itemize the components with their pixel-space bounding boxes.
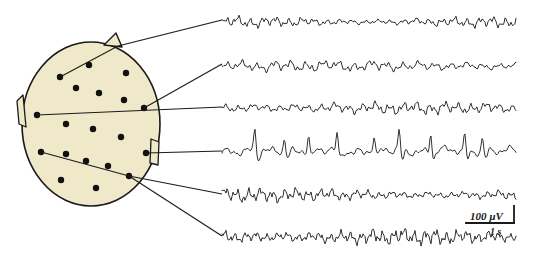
electrode-dot-e5[interactable] bbox=[96, 90, 102, 96]
eeg-trace-channel-4[interactable] bbox=[222, 129, 516, 160]
electrode-dot-e18[interactable] bbox=[58, 177, 64, 183]
scalp-electrode-map bbox=[17, 33, 160, 206]
eeg-trace-channel-3[interactable] bbox=[222, 101, 516, 115]
eeg-trace-channel-6[interactable] bbox=[222, 229, 516, 247]
eeg-trace-channel-1[interactable] bbox=[222, 15, 516, 28]
nose-icon bbox=[104, 33, 122, 47]
eeg-trace-channel-5[interactable] bbox=[222, 187, 516, 203]
electrode-dot-e11[interactable] bbox=[118, 134, 124, 140]
figure-root: 100 µV 1 s bbox=[0, 0, 533, 265]
electrode-dot-e4[interactable] bbox=[73, 85, 79, 91]
eeg-figure: 100 µV 1 s bbox=[0, 0, 533, 265]
electrode-dot-e10[interactable] bbox=[90, 126, 96, 132]
electrode-dot-e19[interactable] bbox=[93, 185, 99, 191]
electrode-dot-e16[interactable] bbox=[105, 163, 111, 169]
electrode-dot-e3[interactable] bbox=[123, 70, 129, 76]
scale-bar-voltage-label: 100 µV bbox=[470, 210, 505, 222]
right-ear-icon bbox=[150, 139, 159, 165]
electrode-dot-e6[interactable] bbox=[121, 97, 127, 103]
electrode-dot-e9[interactable] bbox=[63, 121, 69, 127]
electrode-dot-e14[interactable] bbox=[63, 151, 69, 157]
scale-bar: 100 µV 1 s bbox=[466, 206, 514, 237]
eeg-trace-channel-2[interactable] bbox=[222, 60, 516, 73]
leader-line-l2 bbox=[144, 64, 222, 108]
scale-bar-time-label: 1 s bbox=[490, 226, 502, 237]
